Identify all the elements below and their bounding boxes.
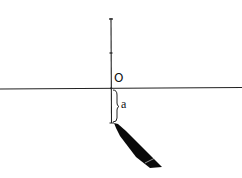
origin-point — [110, 87, 112, 89]
pen-icon — [114, 123, 162, 168]
diagram-canvas: O a — [0, 0, 242, 178]
distance-brace — [113, 90, 119, 122]
distance-label: a — [121, 98, 126, 110]
origin-label: O — [114, 72, 123, 84]
horizontal-axis — [0, 88, 242, 90]
